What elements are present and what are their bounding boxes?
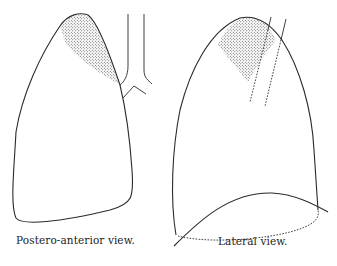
- lung-diagram: [0, 0, 337, 266]
- trachea-solid-2: [281, 19, 286, 40]
- postero-anterior-lung: [13, 14, 152, 222]
- shaded-apex-right: [218, 17, 276, 82]
- bronchus-line: [123, 86, 146, 98]
- trachea-line-2: [144, 14, 152, 84]
- trachea-line-1: [120, 14, 128, 85]
- caption-postero-anterior: Postero-anterior view.: [16, 234, 135, 246]
- trachea-solid-1: [268, 17, 271, 30]
- caption-lateral: Lateral view.: [218, 235, 288, 247]
- shaded-apex-left: [60, 15, 119, 84]
- lateral-lung: [173, 17, 328, 246]
